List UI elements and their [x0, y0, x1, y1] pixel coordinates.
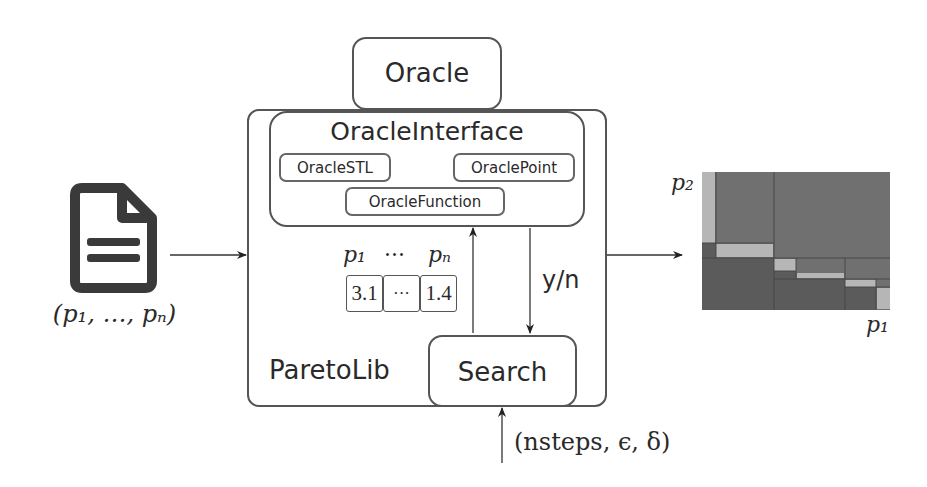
paretolib-label: ParetoLib	[269, 355, 390, 385]
input-parameters-label: (p₁, …, pₙ)	[42, 300, 187, 328]
search-label: Search	[458, 357, 547, 387]
answer-label: y/n	[542, 266, 580, 294]
oracle-stl-box: OracleSTL	[279, 153, 391, 182]
point-header-dots: ···	[384, 242, 405, 267]
oracle-label: Oracle	[385, 58, 470, 88]
point-cell-middle: ···	[383, 275, 420, 312]
search-box: Search	[428, 335, 577, 407]
point-cell-last: 1.4	[420, 275, 457, 312]
oracle-box: Oracle	[352, 37, 502, 110]
plot-y-axis-label: p₂	[671, 170, 694, 195]
oracle-interface-label: OracleInterface	[271, 117, 583, 146]
oracle-point-label: OraclePoint	[471, 159, 557, 177]
oracle-function-box: OracleFunction	[345, 187, 505, 216]
plot-x-axis-label: p₁	[866, 312, 889, 337]
search-parameters-label: (nsteps, ϵ, δ)	[514, 428, 670, 456]
oracle-function-label: OracleFunction	[369, 193, 482, 211]
pareto-front-plot	[702, 172, 890, 310]
point-cell-first: 3.1	[346, 275, 383, 312]
point-header-first: p₁	[343, 242, 366, 267]
oracle-point-box: OraclePoint	[453, 153, 575, 182]
document-icon	[70, 183, 157, 293]
point-header-last: pₙ	[428, 242, 451, 267]
oracle-stl-label: OracleSTL	[297, 159, 373, 177]
